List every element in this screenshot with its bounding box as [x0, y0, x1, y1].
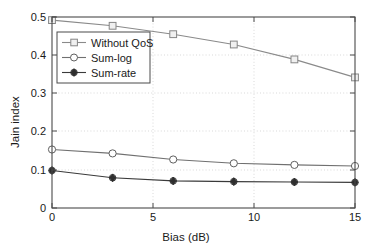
x-axis-title: Bias (dB)	[0, 232, 372, 244]
y-axis-title: Jain index	[10, 96, 22, 148]
y-tick-label-0.5: 0.5	[14, 12, 46, 23]
x-tick-label-5: 5	[138, 212, 168, 223]
x-tick-label-15: 15	[340, 212, 370, 223]
jain-index-chart-figure: Without QoS Sum-log Sum-rate 0.5 0.4 0.3…	[0, 0, 372, 251]
legend[interactable]	[57, 32, 150, 83]
x-tick-label-0: 0	[37, 212, 67, 223]
y-tick-label-0.1: 0.1	[14, 165, 46, 176]
x-tick-label-10: 10	[239, 212, 269, 223]
y-tick-label-0.4: 0.4	[14, 50, 46, 61]
